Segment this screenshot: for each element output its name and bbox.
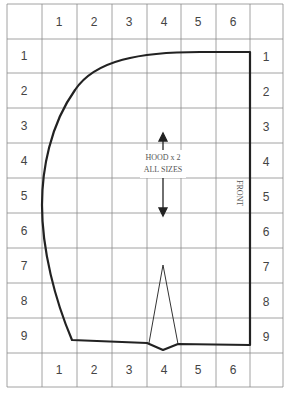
col-label: 6 xyxy=(230,15,237,29)
row-label: 5 xyxy=(21,189,28,203)
row-label: 8 xyxy=(21,294,28,308)
col-label: 1 xyxy=(56,15,63,29)
annotation-sizes: ALL SIZES xyxy=(144,165,183,174)
row-label: 9 xyxy=(263,330,270,344)
row-label: 6 xyxy=(21,224,28,238)
col-label: 6 xyxy=(230,363,237,377)
dart xyxy=(149,265,178,344)
column-labels-top: 1 2 3 4 5 6 xyxy=(56,15,237,29)
column-labels-bottom: 1 2 3 4 5 6 xyxy=(56,363,237,377)
col-label: 4 xyxy=(161,363,168,377)
col-label: 3 xyxy=(126,15,133,29)
hood-outline xyxy=(42,52,250,350)
row-label: 3 xyxy=(263,120,270,134)
col-label: 1 xyxy=(56,363,63,377)
row-label: 1 xyxy=(263,50,270,64)
row-labels-left: 1 2 3 4 5 6 7 8 9 xyxy=(21,49,28,343)
col-label: 2 xyxy=(91,15,98,29)
col-label: 5 xyxy=(195,15,202,29)
annotation-hood: HOOD x 2 xyxy=(145,153,180,162)
row-label: 1 xyxy=(21,49,28,63)
row-label: 4 xyxy=(263,155,270,169)
row-label: 9 xyxy=(21,329,28,343)
row-label: 2 xyxy=(21,84,28,98)
col-label: 4 xyxy=(161,15,168,29)
row-label: 4 xyxy=(21,154,28,168)
row-labels-right: 1 2 3 4 5 6 7 8 9 xyxy=(263,50,270,344)
row-label: 5 xyxy=(263,190,270,204)
hood-pattern-diagram: 1 2 3 4 5 6 1 2 3 4 5 6 1 2 3 4 5 6 7 8 … xyxy=(0,0,288,393)
arrow-down-icon xyxy=(159,208,167,216)
row-label: 3 xyxy=(21,119,28,133)
col-label: 3 xyxy=(126,363,133,377)
row-label: 8 xyxy=(263,295,270,309)
row-label: 2 xyxy=(263,85,270,99)
row-label: 7 xyxy=(263,260,270,274)
col-label: 5 xyxy=(195,363,202,377)
row-label: 7 xyxy=(21,259,28,273)
front-label: FRONT xyxy=(235,180,244,206)
arrow-up-icon xyxy=(159,133,167,141)
row-label: 6 xyxy=(263,225,270,239)
col-label: 2 xyxy=(91,363,98,377)
